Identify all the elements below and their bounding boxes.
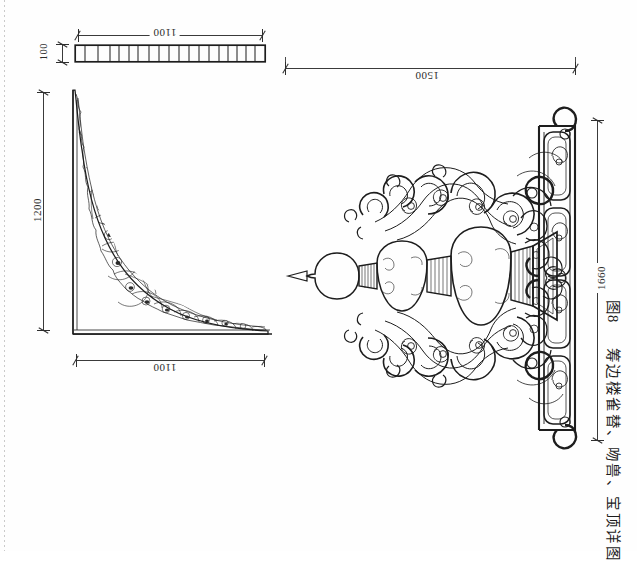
finial-width-dimline	[285, 68, 575, 69]
finial-width-label: 1500	[412, 70, 442, 82]
figure-number: 图8	[605, 300, 621, 323]
bracket-graphic	[62, 88, 277, 343]
top-bar-height-label: 100	[38, 40, 49, 63]
finial-graphic	[285, 100, 595, 460]
bracket-height-label: 1200	[31, 195, 43, 225]
page-edge-artifact	[4, 0, 5, 551]
bracket-width-label: 1100	[150, 362, 180, 374]
top-bar-height-dimline	[62, 44, 63, 62]
top-bar-width-label: 1100	[150, 27, 180, 39]
bracket-height-dimline	[43, 92, 44, 330]
figure-caption-text: 筹边楼雀替、吻兽、宝顶详图	[605, 348, 621, 562]
figure-caption: 图8 筹边楼雀替、吻兽、宝顶详图	[601, 0, 635, 551]
top-bar-graphic	[74, 44, 274, 70]
bracket-width-dimline	[76, 360, 264, 361]
